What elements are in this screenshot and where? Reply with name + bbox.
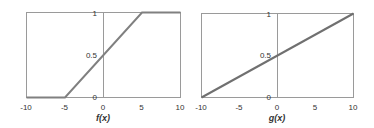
x-tick: 0	[101, 103, 106, 112]
x-tick: 10	[349, 103, 358, 112]
x-tick: 5	[313, 103, 318, 112]
x-tick: -5	[61, 103, 69, 112]
x-tick: -5	[235, 103, 243, 112]
x-tick: 10	[176, 103, 185, 112]
chart-f: 0 0.5 1 -10 -5 0 5 10 f(x)	[20, 9, 185, 123]
chart-g: 0 0.5 1 -10 -5 0 5 10 g(x)	[195, 10, 358, 123]
x-tick: -10	[195, 103, 207, 112]
y-tick: 0.5	[86, 51, 98, 60]
y-tick: 1	[267, 10, 272, 19]
x-axis-label: f(x)	[96, 113, 110, 123]
x-tick: 0	[275, 103, 280, 112]
y-tick: 0	[93, 93, 98, 102]
y-tick: 1	[93, 9, 98, 18]
y-tick: 0.5	[260, 51, 272, 60]
y-tick: 0	[267, 93, 272, 102]
x-tick: -10	[20, 103, 32, 112]
x-axis-label: g(x)	[268, 113, 286, 123]
x-tick: 5	[139, 103, 144, 112]
charts-canvas: 0 0.5 1 -10 -5 0 5 10 f(x) 0 0.5 1 -10 -…	[0, 0, 374, 128]
